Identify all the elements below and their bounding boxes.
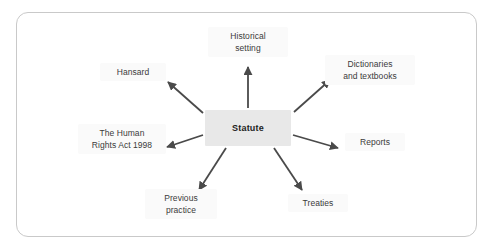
arrow-to-dictionaries: [294, 80, 330, 112]
arrow-to-hansard: [168, 82, 203, 113]
node-previous-practice[interactable]: Previous practice: [145, 189, 217, 219]
node-reports[interactable]: Reports: [345, 133, 405, 151]
diagram-canvas: Statute Historical setting Dictionaries …: [0, 0, 493, 250]
node-human-rights-act[interactable]: The Human Rights Act 1998: [78, 124, 166, 154]
arrow-to-human-rights-act: [167, 135, 203, 147]
arrow-to-treaties: [274, 148, 302, 190]
arrow-to-previous-practice: [199, 148, 226, 190]
node-hansard[interactable]: Hansard: [100, 63, 166, 81]
node-dictionaries[interactable]: Dictionaries and textbooks: [325, 55, 415, 85]
node-treaties[interactable]: Treaties: [288, 194, 348, 212]
node-historical-setting[interactable]: Historical setting: [208, 27, 288, 57]
arrow-to-reports: [293, 135, 338, 148]
center-node-statute[interactable]: Statute: [205, 110, 291, 146]
